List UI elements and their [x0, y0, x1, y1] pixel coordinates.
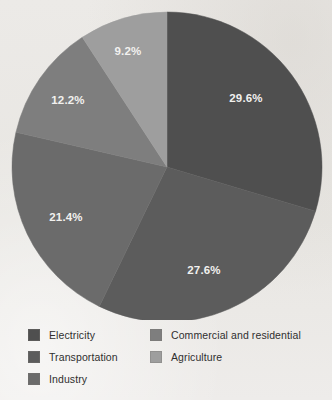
chart-legend: Electricity Transportation Industry Comm… [0, 320, 332, 400]
legend-item-electricity[interactable]: Electricity [28, 324, 150, 346]
legend-swatch-icon [150, 351, 162, 363]
legend-item-label: Electricity [49, 329, 95, 341]
legend-item-transportation[interactable]: Transportation [28, 346, 150, 368]
pie-slice-value-label: 9.2% [114, 45, 141, 57]
legend-item-agriculture[interactable]: Agriculture [150, 346, 326, 368]
page-root: 29.6%27.6%21.4%12.2%9.2% Electricity Tra… [0, 0, 332, 400]
legend-item-industry[interactable]: Industry [28, 368, 150, 390]
legend-item-label: Agriculture [171, 351, 222, 363]
legend-columns: Electricity Transportation Industry Comm… [28, 324, 332, 390]
legend-column-left: Electricity Transportation Industry [28, 324, 150, 390]
pie-slice-value-label: 29.6% [229, 92, 263, 104]
pie-slice-value-label: 12.2% [51, 94, 85, 106]
legend-swatch-icon [28, 373, 40, 385]
legend-column-right: Commercial and residential Agriculture [150, 324, 326, 368]
pie-chart: 29.6%27.6%21.4%12.2%9.2% [0, 0, 332, 320]
pie-slice-value-label: 27.6% [187, 264, 221, 276]
legend-item-label: Industry [49, 373, 87, 385]
legend-swatch-icon [28, 329, 40, 341]
pie-chart-svg: 29.6%27.6%21.4%12.2%9.2% [0, 0, 332, 320]
pie-slice-group [12, 12, 322, 320]
legend-item-label: Commercial and residential [171, 329, 301, 341]
legend-swatch-icon [150, 329, 162, 341]
legend-item-commercial-and-residential[interactable]: Commercial and residential [150, 324, 326, 346]
legend-item-label: Transportation [49, 351, 118, 363]
pie-slice-value-label: 21.4% [49, 211, 83, 223]
legend-swatch-icon [28, 351, 40, 363]
